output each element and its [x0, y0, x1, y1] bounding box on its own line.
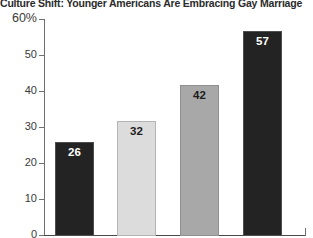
y-axis-label: 0	[3, 229, 37, 238]
bar-fill	[117, 121, 156, 236]
bar-fill	[180, 85, 219, 236]
bar: 57	[243, 31, 282, 236]
bar: 26	[55, 142, 94, 236]
plot-area: 26324257	[44, 19, 306, 236]
bar-value-label: 32	[117, 125, 156, 137]
bar-value-label: 57	[243, 35, 282, 47]
y-axis-label: 20	[3, 157, 37, 168]
bar-value-label: 26	[55, 146, 94, 158]
bar: 42	[180, 85, 219, 236]
bar-fill	[243, 31, 282, 236]
bar-value-label: 42	[180, 89, 219, 101]
y-axis-label: 60%	[3, 12, 37, 24]
y-axis-label: 30	[3, 121, 37, 132]
y-axis-label: 50	[3, 49, 37, 60]
y-axis-label: 10	[3, 193, 37, 204]
bar-chart: Culture Shift: Younger Americans Are Emb…	[0, 0, 313, 238]
y-axis-label: 40	[3, 85, 37, 96]
chart-title: Culture Shift: Younger Americans Are Emb…	[0, 0, 313, 11]
bar: 32	[117, 121, 156, 236]
